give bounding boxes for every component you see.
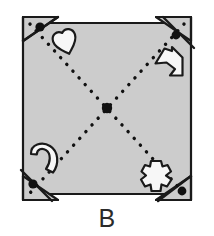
symmetry-figure-svg (0, 0, 214, 236)
motif-cross (141, 161, 172, 191)
figure-container: B (0, 0, 214, 236)
jagged-cross-icon (141, 161, 172, 191)
center-pivot-dot (102, 103, 112, 113)
figure-label: B (0, 203, 214, 233)
